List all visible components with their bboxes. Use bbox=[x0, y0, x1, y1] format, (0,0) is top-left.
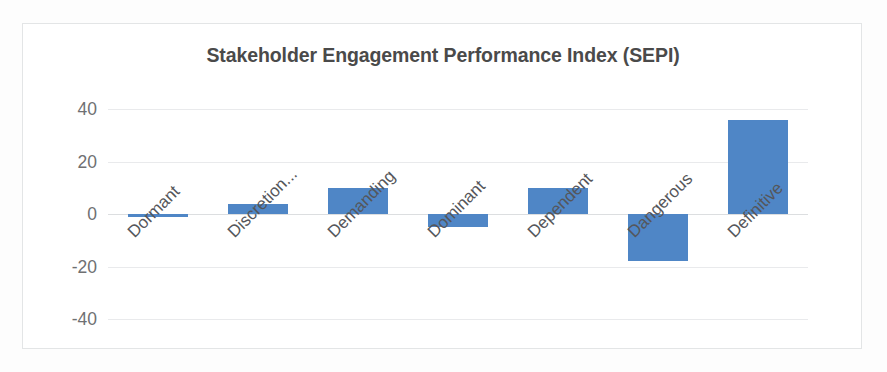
y-tick-label--40: -40 bbox=[72, 309, 97, 330]
y-tick-label-40: 40 bbox=[78, 99, 97, 120]
chart-frame: Stakeholder Engagement Performance Index… bbox=[22, 23, 862, 349]
y-tick-label-0: 0 bbox=[87, 204, 97, 225]
y-tick-label-20: 20 bbox=[78, 151, 97, 172]
gridline--40 bbox=[108, 319, 808, 320]
chart-title: Stakeholder Engagement Performance Index… bbox=[23, 44, 863, 67]
y-tick-label--20: -20 bbox=[72, 256, 97, 277]
